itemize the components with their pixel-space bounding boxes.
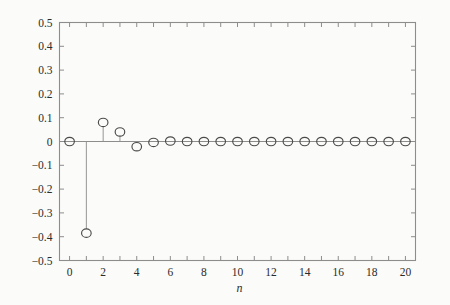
y-tick-label: −0.1 xyxy=(32,159,53,171)
y-tick-labels-group: 0.50.40.30.20.10−0.1−0.2−0.3−0.4−0.5 xyxy=(32,17,53,267)
y-tick-label: −0.3 xyxy=(32,207,53,219)
x-tick-label: 18 xyxy=(366,266,378,278)
x-tick-label: 4 xyxy=(134,266,140,278)
y-tick-label: −0.4 xyxy=(32,231,53,243)
x-tick-label: 8 xyxy=(201,266,207,278)
y-tick-label: 0.1 xyxy=(38,112,53,124)
data-marker xyxy=(115,128,125,136)
x-tick-label: 10 xyxy=(232,266,244,278)
figure-container: 0.50.40.30.20.10−0.1−0.2−0.3−0.4−0.5 024… xyxy=(0,0,450,305)
data-marker xyxy=(132,143,142,151)
data-marker xyxy=(98,118,108,126)
stem-lines-group xyxy=(60,127,416,229)
stem-plot: 0.50.40.30.20.10−0.1−0.2−0.3−0.4−0.5 024… xyxy=(0,0,450,305)
x-tick-label: 16 xyxy=(333,266,345,278)
data-marker xyxy=(149,138,159,146)
y-tick-label: 0.3 xyxy=(38,64,53,76)
x-tick-label: 6 xyxy=(167,266,173,278)
data-marker xyxy=(82,229,92,237)
x-tick-labels-group: 02468101214161820 xyxy=(67,266,412,278)
x-axis-title: n xyxy=(237,281,243,295)
data-markers-group xyxy=(65,118,410,237)
x-tick-label: 12 xyxy=(265,266,277,278)
y-tick-label: 0.5 xyxy=(38,17,53,29)
x-tick-label: 14 xyxy=(299,266,311,278)
x-tick-label: 20 xyxy=(400,266,412,278)
x-tick-label: 2 xyxy=(100,266,106,278)
x-tick-label: 0 xyxy=(67,266,73,278)
y-tick-label: 0.4 xyxy=(38,40,53,52)
y-tick-label: 0.2 xyxy=(38,88,53,100)
y-tick-label: −0.5 xyxy=(32,255,53,267)
y-tick-label: 0 xyxy=(47,136,53,148)
y-tick-label: −0.2 xyxy=(32,183,53,195)
